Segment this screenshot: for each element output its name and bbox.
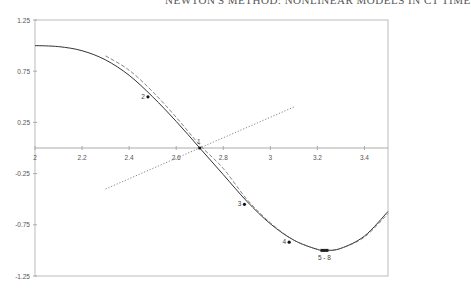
iterate-marker bbox=[198, 146, 201, 149]
series-approximation bbox=[106, 56, 388, 251]
x-tick-label: 2.6 bbox=[172, 154, 181, 161]
y-tick-label: 1.25 bbox=[17, 17, 30, 24]
iterate-label: 5 - 8 bbox=[318, 254, 331, 261]
y-tick-label: -1.25 bbox=[15, 273, 30, 280]
y-tick-label: -0.25 bbox=[15, 170, 30, 177]
iterate-marker bbox=[288, 241, 291, 244]
iterate-label: 2 bbox=[141, 93, 145, 100]
y-tick-label: 0.75 bbox=[17, 68, 30, 75]
iterate-label: 4 bbox=[283, 238, 287, 245]
x-tick-label: 3 bbox=[269, 154, 273, 161]
y-tick-label: 0.25 bbox=[17, 119, 30, 126]
x-tick-label: 2.8 bbox=[219, 154, 228, 161]
iterate-label: 1 bbox=[197, 138, 201, 145]
x-tick-label: 2.2 bbox=[78, 154, 87, 161]
iterate-marker bbox=[320, 249, 328, 252]
x-tick-label: 2.4 bbox=[125, 154, 134, 161]
y-tick-label: -0.75 bbox=[15, 221, 30, 228]
iterate-label: 3 bbox=[238, 200, 242, 207]
x-tick-label: 3.4 bbox=[360, 154, 369, 161]
x-tick-label: 2 bbox=[33, 154, 37, 161]
iterate-marker bbox=[243, 203, 246, 206]
iterate-marker bbox=[146, 95, 149, 98]
x-tick-label: 3.2 bbox=[313, 154, 322, 161]
